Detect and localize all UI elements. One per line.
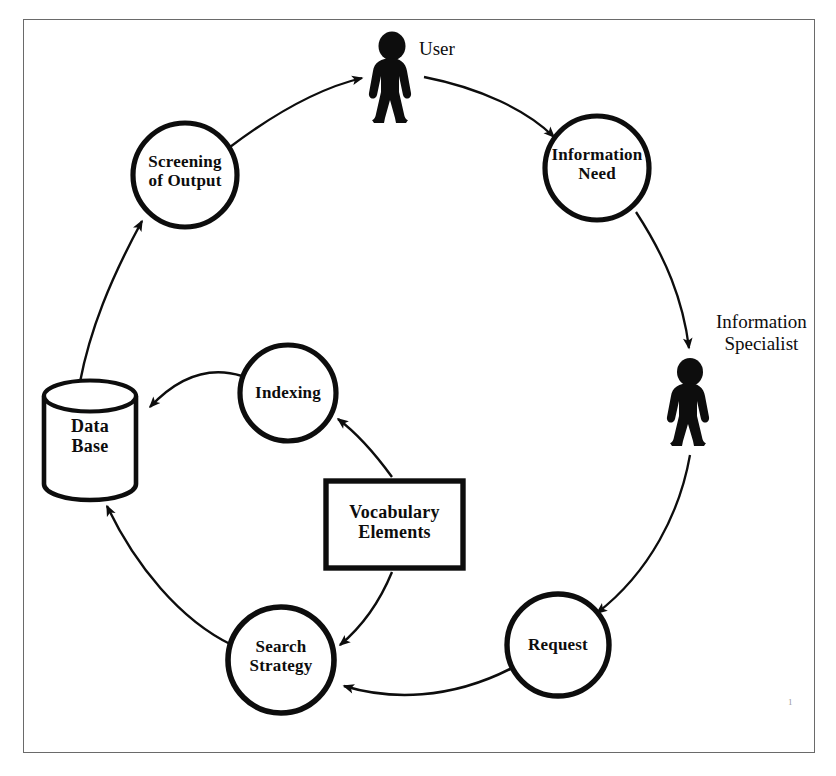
edge-information-need-to-specialist [636,212,689,348]
edge-specialist-to-request [597,455,690,613]
page-mark: 1 [788,697,793,707]
edge-data-base-to-screening [80,221,142,382]
node-information-need[interactable] [545,116,649,220]
edge-vocabulary-to-indexing [338,419,392,477]
actor-label-user: User [419,38,455,60]
node-request[interactable] [507,594,609,696]
node-data-base[interactable] [44,381,136,501]
node-screening-of-output[interactable] [133,123,237,227]
person-silhouette-icon-information-specialist [667,358,709,446]
node-vocabulary-elements[interactable] [326,481,463,568]
person-silhouette-icon-user [369,32,411,124]
actor-label-information-specialist: Information Specialist [716,311,807,356]
edge-indexing-to-data-base [150,372,242,407]
edge-screening-to-user [230,78,362,147]
diagram-page: Screening of Output Information Need Req… [0,0,836,776]
node-search-strategy[interactable] [228,607,334,713]
edge-user-to-information-need [424,77,554,137]
edge-search-strategy-to-data-base [107,506,232,645]
node-indexing[interactable] [240,345,336,441]
edge-request-to-search-strategy [344,668,512,695]
edge-vocabulary-to-search-strategy [340,572,392,645]
diagram-canvas [0,0,836,776]
